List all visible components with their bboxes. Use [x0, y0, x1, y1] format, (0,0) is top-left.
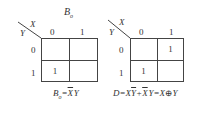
column-label-1: 1: [169, 27, 174, 37]
xor-symbol: ⊕: [165, 88, 173, 98]
cell-y1-x0: 1: [130, 66, 157, 76]
row-label-1: 1: [119, 68, 124, 78]
cell-y0-x1: 1: [157, 44, 184, 54]
difference-formula: D=XY+X Y=X⊕Y: [113, 88, 178, 98]
column-variable-label: X: [119, 17, 125, 27]
grid-divider-horizontal: [130, 60, 184, 61]
column-label-0: 0: [139, 27, 144, 37]
row-variable-label: Y: [109, 27, 114, 37]
row-label-0: 0: [119, 45, 124, 55]
